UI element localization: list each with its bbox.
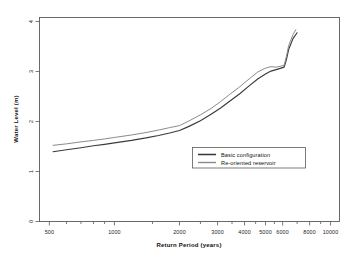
x-tick-label: 10000 [323,229,339,235]
y-tick-label: 4 [28,20,34,23]
x-tick-label: 3000 [211,229,224,235]
y-axis-title: Water Level (m) [13,95,19,142]
legend-label-basic-configuration: Basic configuration [221,152,270,158]
chart-figure: 0 1 2 3 4 Water Level (m) 50010002000300… [0,0,357,260]
line-chart: 0 1 2 3 4 Water Level (m) 50010002000300… [0,0,357,260]
x-tick-label: 500 [45,229,54,235]
y-tick-label: 2 [28,120,34,123]
x-tick-label: 6000 [276,229,289,235]
x-tick-label: 1000 [108,229,121,235]
y-tick-label: 0 [28,220,34,223]
chart-legend: Basic configuration Re-oriented reservoi… [193,148,306,169]
x-tick-label: 8000 [303,229,316,235]
legend-label-re-oriented-reservoir: Re-oriented reservoir [221,160,276,166]
x-axis-title: Return Period (years) [156,242,221,248]
x-tick-label: 4000 [238,229,251,235]
x-tick-label: 5000 [259,229,272,235]
x-tick-label: 2000 [173,229,186,235]
y-tick-label: 1 [28,170,34,173]
y-tick-label: 3 [28,70,34,73]
chart-background [0,0,357,260]
